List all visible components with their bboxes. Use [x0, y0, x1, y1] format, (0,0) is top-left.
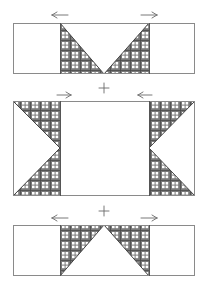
plus-icon [99, 206, 109, 216]
arrow-left-icon [138, 92, 152, 98]
quilt-assembly-diagram: Quilt block assembly: flying geese units [0, 0, 207, 288]
bottom-row [14, 215, 195, 276]
middle-row [13, 92, 195, 196]
arrow-left-icon [52, 215, 68, 221]
arrow-right-icon [141, 215, 157, 221]
arrow-right-icon [57, 92, 71, 98]
diagram-canvas [0, 0, 207, 288]
arrow-left-icon [52, 12, 68, 18]
arrow-right-icon [141, 12, 157, 18]
plus-icon [99, 83, 109, 93]
top-row [14, 12, 195, 74]
